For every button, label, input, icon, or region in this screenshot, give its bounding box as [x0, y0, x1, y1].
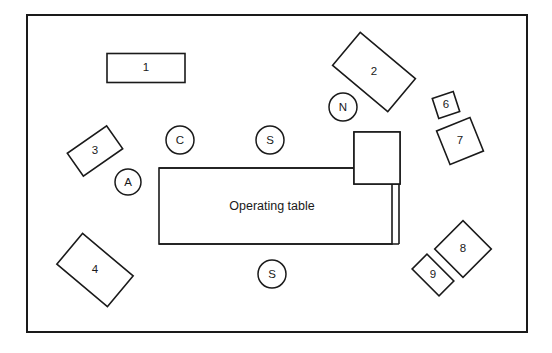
equipment-label-7: 7 [457, 134, 463, 146]
equipment-label-2: 2 [371, 65, 377, 77]
equipment-label-4: 4 [92, 263, 99, 275]
equipment-label-3: 3 [92, 144, 98, 156]
equipment-label-8: 8 [460, 242, 466, 254]
staff-label-N: N [339, 101, 347, 113]
staff-label-S-upper: S [266, 134, 274, 146]
staff-label-S-lower: S [268, 268, 276, 280]
staff-label-C: C [176, 134, 184, 146]
staff-label-A: A [124, 176, 132, 188]
operating-room-diagram: Operating table 123456789 CSNAS [0, 0, 552, 353]
equipment-label-9: 9 [430, 268, 436, 280]
operating-table-label: Operating table [229, 199, 315, 213]
equipment-label-6: 6 [443, 98, 449, 110]
equipment-shape-5-outline [354, 132, 400, 184]
equipment-label-1: 1 [143, 61, 149, 73]
room-canvas: Operating table 123456789 CSNAS [0, 0, 552, 353]
